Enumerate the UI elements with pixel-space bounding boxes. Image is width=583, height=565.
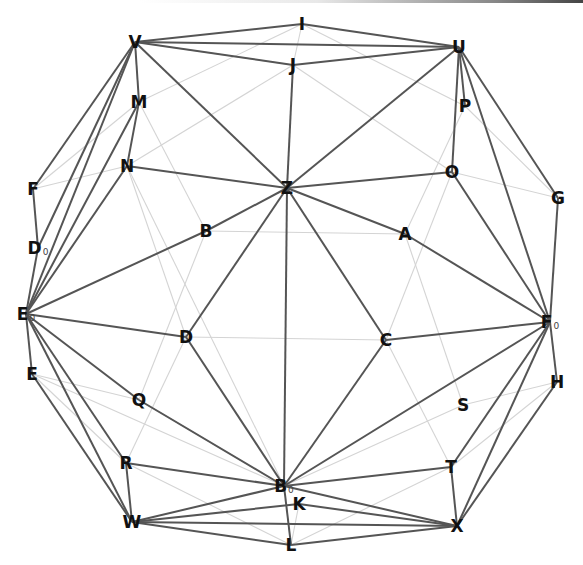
edge-B-A (206, 231, 405, 234)
edge-W-K (132, 504, 299, 522)
node-label-text: W (123, 512, 142, 532)
edge-Z-A (287, 188, 405, 234)
dark-edges-layer (26, 24, 558, 545)
edge-F0-B0 (284, 322, 550, 486)
edge-L-X (291, 526, 457, 545)
node-label-text: P (459, 96, 471, 116)
node-label-text: H (550, 372, 564, 392)
edge-M-E0 (26, 102, 139, 314)
node-A: A (398, 226, 411, 243)
node-label-text: U (452, 37, 466, 57)
node-T: T (445, 459, 457, 476)
node-label-text: V (128, 32, 141, 52)
node-M: M (131, 94, 148, 111)
node-label-text: B (200, 221, 213, 241)
node-P: P (459, 98, 471, 115)
edge-P-G (465, 106, 558, 198)
node-label-text: L (286, 535, 297, 555)
node-F: F (27, 181, 39, 198)
node-D0: D0 (28, 240, 49, 257)
node-label-text: C (380, 330, 392, 350)
edge-Z-D (186, 188, 287, 337)
edge-Q-B0 (139, 400, 284, 486)
node-label-text: Q (132, 390, 146, 410)
edge-Z-B (206, 188, 287, 231)
node-V: V (128, 34, 141, 51)
node-K: K (292, 496, 305, 513)
node-E0: E0 (17, 306, 35, 323)
node-X: X (450, 518, 463, 535)
node-label-text: B (274, 476, 287, 496)
edge-N-B0 (127, 166, 284, 486)
edge-F0-X (457, 322, 550, 526)
node-H: H (550, 374, 564, 391)
node-label-text: A (398, 224, 411, 244)
edge-O-F0 (452, 172, 550, 322)
edge-E0-W (26, 314, 132, 522)
edge-J-N (127, 65, 293, 166)
node-label-text: X (450, 516, 463, 536)
node-label-text: T (445, 457, 457, 477)
edge-A-F0 (405, 234, 550, 322)
node-B: B (200, 223, 213, 240)
node-label-text: N (120, 156, 134, 176)
node-label-text: I (299, 14, 305, 34)
node-label-text: R (119, 453, 132, 473)
node-label-text: D (179, 327, 193, 347)
edge-W-B0 (132, 486, 284, 522)
edge-A-S (405, 234, 463, 405)
edge-E0-D (26, 314, 186, 337)
node-Q: Q (132, 392, 146, 409)
node-G: G (551, 190, 565, 207)
edge-V-D0 (38, 42, 135, 248)
node-subscript: 0 (29, 313, 35, 323)
node-W: W (123, 514, 142, 531)
node-label-text: F (541, 312, 553, 332)
edge-N-Z (127, 166, 287, 188)
node-D: D (179, 329, 193, 346)
node-L: L (286, 537, 297, 554)
node-label-text: J (290, 55, 296, 75)
edge-Z-C (287, 188, 386, 340)
edge-N-D (127, 166, 186, 337)
node-label-text: S (457, 395, 469, 415)
node-label-text: D (28, 238, 42, 258)
node-F0: F0 (541, 314, 559, 331)
edge-G-F0 (550, 198, 558, 322)
node-B0: B0 (274, 478, 294, 495)
node-I: I (299, 16, 305, 33)
node-C: C (380, 332, 392, 349)
node-R: R (119, 455, 132, 472)
node-label-text: E (26, 364, 38, 384)
node-label-text: E (17, 304, 29, 324)
edge-C-B0 (284, 340, 386, 486)
node-S: S (457, 397, 469, 414)
edge-V-J (135, 42, 293, 65)
edge-J-Z (287, 65, 293, 188)
node-label-text: F (27, 179, 39, 199)
node-label-text: M (131, 92, 148, 112)
node-Z: Z (281, 180, 293, 197)
node-O: O (445, 164, 459, 181)
node-label-text: O (445, 162, 459, 182)
edge-U-F0 (459, 47, 550, 322)
node-E: E (26, 366, 38, 383)
node-N: N (120, 158, 134, 175)
edge-V-I (135, 24, 302, 42)
node-label-text: G (551, 188, 565, 208)
edge-J-U (293, 47, 459, 65)
edge-H-X (457, 382, 557, 526)
edge-U-G (459, 47, 558, 198)
node-J: J (290, 57, 296, 74)
node-subscript: 0 (43, 247, 49, 257)
node-label-text: K (292, 494, 305, 514)
node-U: U (452, 39, 466, 56)
node-label-text: Z (281, 178, 293, 198)
edge-V-Z (135, 42, 287, 188)
node-subscript: 0 (553, 321, 559, 331)
edge-U-Z (287, 47, 459, 188)
